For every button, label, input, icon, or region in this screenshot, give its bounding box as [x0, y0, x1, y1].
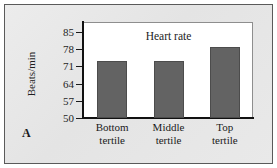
y-tick-label: 71 — [63, 60, 74, 72]
y-tick-mark — [76, 66, 82, 67]
y-tick-label: 78 — [63, 43, 74, 55]
x-category-label-line: Top — [193, 121, 257, 134]
y-tick-label: 50 — [63, 112, 74, 124]
x-category-label-line: Middle — [137, 121, 201, 134]
chart-title: Heart rate — [84, 30, 253, 42]
x-category-label-line: Bottom — [80, 121, 144, 134]
x-category-label-line: tertile — [80, 134, 144, 147]
y-tick-mark — [76, 84, 82, 85]
x-category-label: Middletertile — [137, 121, 201, 146]
y-axis-line — [82, 21, 84, 119]
y-tick-mark — [76, 101, 82, 102]
y-tick-label: 57 — [63, 95, 74, 107]
y-tick-label: 85 — [63, 26, 74, 38]
bar — [210, 47, 240, 118]
y-tick-mark — [76, 49, 82, 50]
y-tick-label: 64 — [63, 78, 74, 90]
panel-letter-label: A — [22, 126, 31, 141]
x-category-label: Toptertile — [193, 121, 257, 146]
x-category-label: Bottomtertile — [80, 121, 144, 146]
y-tick-mark — [76, 118, 82, 119]
x-category-label-line: tertile — [137, 134, 201, 147]
bar — [154, 61, 184, 118]
bar — [97, 61, 127, 118]
y-axis-tick-labels: 505764717885 — [48, 0, 74, 168]
y-axis-title: Beats/min — [25, 36, 37, 112]
y-tick-mark — [76, 32, 82, 33]
x-category-label-line: tertile — [193, 134, 257, 147]
